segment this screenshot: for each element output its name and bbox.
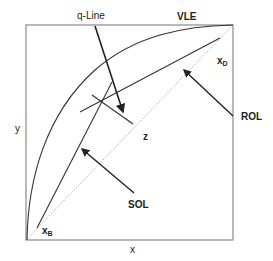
sol-arrow — [82, 149, 134, 193]
rol-arrow — [184, 70, 233, 116]
mccabe-thiele-plot — [0, 0, 273, 261]
vle-label: VLE — [177, 12, 196, 22]
sol-line — [37, 82, 112, 228]
rol-label: ROL — [241, 112, 262, 122]
z-label: z — [143, 132, 148, 142]
sol-label: SOL — [128, 200, 149, 210]
x-axis-label: x — [130, 245, 135, 255]
q-line-label: q-Line — [77, 11, 105, 21]
y-axis-label: y — [15, 124, 20, 134]
q-line-arrow — [95, 26, 123, 112]
xd-label: xD — [217, 56, 228, 69]
xb-label: xB — [42, 226, 53, 239]
